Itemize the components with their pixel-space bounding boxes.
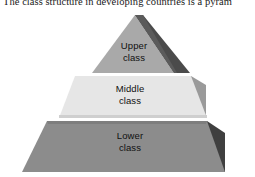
layer-label-middle-line2: class xyxy=(84,95,176,107)
layer-label-upper-line2: class xyxy=(88,52,180,64)
layer-label-upper: Upper class xyxy=(88,40,180,63)
layer-label-lower-line2: class xyxy=(84,142,176,154)
layer-label-lower: Lower class xyxy=(84,130,176,153)
layer-label-middle-line1: Middle xyxy=(116,83,145,94)
layer-label-middle: Middle class xyxy=(84,83,176,106)
lower-band-top-edge xyxy=(47,121,207,124)
middle-band-bottom-edge xyxy=(59,115,207,118)
class-structure-figure: The class structure in developing countr… xyxy=(0,0,255,177)
layer-label-lower-line1: Lower xyxy=(117,130,143,141)
layer-label-upper-line1: Upper xyxy=(121,40,147,51)
